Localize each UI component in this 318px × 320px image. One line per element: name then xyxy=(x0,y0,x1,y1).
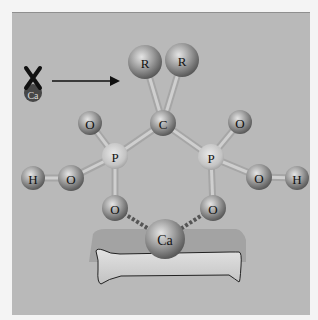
atom-o-bot-left: O xyxy=(102,195,128,221)
blocked-calcium-icon: Ca xyxy=(24,68,42,102)
atom-r1: R xyxy=(128,45,162,79)
atom-h-right: H xyxy=(285,166,309,190)
atom-label: O xyxy=(85,117,94,132)
atom-label: H xyxy=(292,172,301,187)
atom-label: O xyxy=(235,116,244,131)
atom-c: C xyxy=(150,110,176,136)
svg-text:Ca: Ca xyxy=(27,90,39,101)
atom-p-right: P xyxy=(198,144,224,170)
atom-label: R xyxy=(178,54,187,69)
atom-label: P xyxy=(111,150,118,165)
atom-o-mid-left: O xyxy=(58,165,84,191)
atom-r2: R xyxy=(165,43,199,77)
atom-label: H xyxy=(28,172,37,187)
atom-o-top-right: O xyxy=(228,110,252,134)
atom-o-bot-right: O xyxy=(200,195,226,221)
atom-p-left: P xyxy=(102,143,128,169)
atom-o-top-left: O xyxy=(78,111,102,135)
atoms: RRCOOPPOHOHOOCa xyxy=(21,43,309,259)
atom-label: Ca xyxy=(157,233,173,248)
atom-label: O xyxy=(110,202,119,217)
atom-label: O xyxy=(254,171,263,186)
atom-o-mid-right: O xyxy=(246,164,272,190)
molecule-diagram: RRCOOPPOHOHOOCa Ca xyxy=(0,0,318,320)
atom-label: C xyxy=(159,117,168,132)
atom-h-left: H xyxy=(21,166,45,190)
atom-label: O xyxy=(208,202,217,217)
atom-label: R xyxy=(141,56,150,71)
atom-label: O xyxy=(66,172,75,187)
arrow-icon xyxy=(52,76,120,86)
atom-label: P xyxy=(207,151,214,166)
atom-ca: Ca xyxy=(145,219,185,259)
